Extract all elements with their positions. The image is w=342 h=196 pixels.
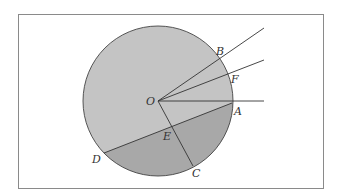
label-D: D: [91, 153, 101, 166]
label-B: B: [215, 45, 224, 58]
geometry-diagram: O A B F E D C: [0, 0, 342, 196]
label-E: E: [162, 130, 171, 143]
label-O: O: [146, 95, 155, 108]
label-C: C: [192, 167, 201, 180]
label-A: A: [233, 105, 242, 118]
label-F: F: [230, 73, 239, 86]
